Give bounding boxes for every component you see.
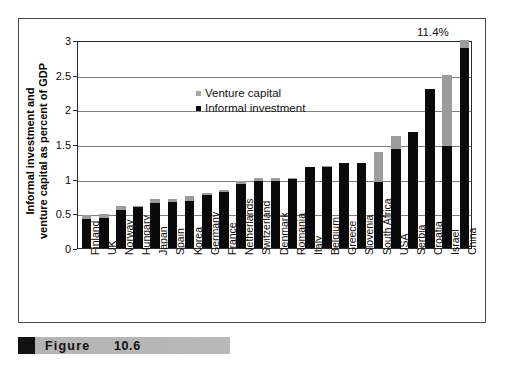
x-axis-label-switzerland: Switzerland bbox=[261, 201, 271, 255]
bar-segment-informal-investment bbox=[460, 48, 470, 248]
x-axis-label-germany: Germany bbox=[210, 212, 220, 255]
figure-page: 11.4% Informal investment andventure cap… bbox=[0, 0, 506, 367]
x-axis-label-china: China bbox=[467, 228, 477, 255]
caption-label: Figure bbox=[45, 339, 90, 353]
plot-area: Venture capital Informal investment bbox=[77, 41, 472, 249]
x-axis-label-denmark: Denmark bbox=[279, 212, 289, 255]
bar-segment-venture-capital bbox=[460, 40, 470, 48]
x-axis-label-hungary: Hungary bbox=[141, 215, 151, 255]
x-axis-label-norway: Norway bbox=[124, 219, 134, 255]
bar-segment-venture-capital bbox=[374, 152, 384, 182]
figure-caption: Figure 10.6 bbox=[18, 337, 248, 355]
caption-number: 10.6 bbox=[114, 339, 141, 353]
caption-square-icon bbox=[18, 337, 35, 354]
x-axis-label-croatia: Croatia bbox=[433, 221, 443, 255]
x-axis-label-romania: Romania bbox=[296, 213, 306, 255]
legend-item-venture-capital: Venture capital bbox=[196, 86, 305, 100]
chart-legend: Venture capital Informal investment bbox=[196, 86, 305, 116]
x-axis-label-japan: Japan bbox=[158, 226, 168, 255]
x-axis-label-finland: Finland bbox=[90, 221, 100, 255]
legend-item-informal-investment: Informal investment bbox=[196, 101, 305, 115]
legend-label-informal-investment: Informal investment bbox=[205, 102, 305, 114]
bar-china bbox=[460, 40, 470, 248]
x-axis-label-netherlands: Netherlands bbox=[244, 198, 254, 255]
bar-series-group bbox=[78, 42, 471, 248]
china-value-annotation: 11.4% bbox=[417, 26, 449, 38]
bar-segment-venture-capital bbox=[442, 75, 452, 146]
x-axis-label-uk: UK bbox=[107, 240, 117, 255]
legend-swatch-informal-investment bbox=[196, 106, 201, 111]
x-axis-label-france: France bbox=[227, 222, 237, 255]
x-axis-label-slovenia: Slovenia bbox=[364, 215, 374, 255]
x-axis-label-greece: Greece bbox=[347, 221, 357, 255]
x-axis-label-korea: Korea bbox=[193, 227, 203, 255]
x-axis-label-serbia: Serbia bbox=[416, 225, 426, 255]
x-axis-label-spain: Spain bbox=[175, 228, 185, 255]
x-axis-label-south-africa: South Africa bbox=[382, 198, 392, 255]
x-axis-label-belgium: Belgium bbox=[330, 217, 340, 255]
x-axis-label-usa: USA bbox=[399, 233, 409, 255]
legend-label-venture-capital: Venture capital bbox=[205, 87, 281, 99]
legend-swatch-venture-capital bbox=[196, 91, 201, 96]
y-axis-title: Informal investment andventure capital a… bbox=[24, 46, 54, 256]
x-axis-label-israel: Israel bbox=[450, 229, 460, 255]
bar-segment-venture-capital bbox=[391, 136, 401, 149]
x-axis-label-italy: Italy bbox=[313, 236, 323, 255]
